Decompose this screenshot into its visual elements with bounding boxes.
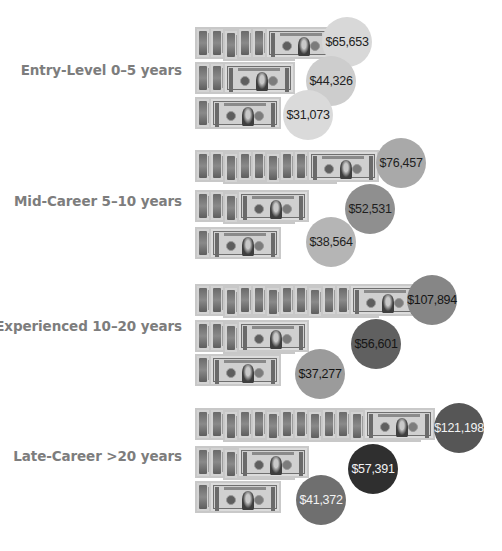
- dollar-bill-icon: [209, 227, 281, 259]
- dollar-bill-icon: [209, 481, 281, 513]
- dollar-bill-icon: [363, 408, 435, 440]
- salary-bubble: $31,073: [283, 90, 333, 140]
- salary-bubble: $56,601: [351, 319, 401, 369]
- salary-bubble: $76,457: [376, 138, 426, 188]
- group-label: Experienced 10–20 years: [0, 318, 182, 334]
- dollar-bill-icon: [237, 446, 309, 478]
- salary-bubble: $107,894: [407, 275, 457, 325]
- salary-bubble: $41,372: [296, 475, 346, 525]
- salary-bubble: $52,531: [345, 184, 395, 234]
- group-label: Late-Career >20 years: [13, 448, 182, 464]
- dollar-bill-icon: [209, 97, 281, 129]
- group-label: Entry-Level 0–5 years: [21, 62, 182, 78]
- dollar-bill-icon: [237, 320, 309, 352]
- dollar-bill-icon: [237, 190, 309, 222]
- salary-bubble: $57,391: [348, 444, 398, 494]
- salary-bubble: $38,564: [306, 217, 356, 267]
- dollar-bill-icon: [223, 62, 295, 94]
- group-label: Mid-Career 5–10 years: [14, 193, 182, 209]
- dollar-bill-icon: [209, 354, 281, 386]
- salary-bubble: $121,198: [434, 403, 484, 453]
- dollar-bill-icon: [307, 150, 379, 182]
- salary-bubble: $37,277: [295, 349, 345, 399]
